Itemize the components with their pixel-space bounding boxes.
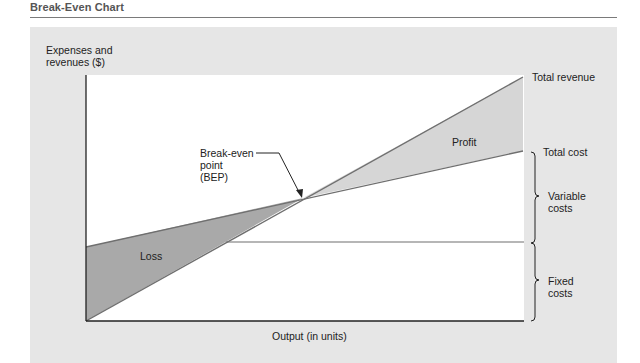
profit-label: Profit	[452, 136, 477, 148]
fixed-costs-brace	[531, 243, 539, 321]
total-cost-label: Total cost	[543, 146, 587, 158]
x-axis-label: Output (in units)	[272, 330, 347, 342]
bep-label: Break-even point (BEP)	[200, 147, 254, 183]
total-revenue-label: Total revenue	[532, 71, 595, 83]
variable-costs-brace	[531, 152, 539, 243]
fixed-costs-label: Fixed costs	[548, 275, 574, 299]
loss-label: Loss	[140, 250, 162, 262]
variable-costs-label: Variable costs	[548, 190, 586, 214]
y-axis-label: Expenses and revenues ($)	[46, 44, 113, 68]
